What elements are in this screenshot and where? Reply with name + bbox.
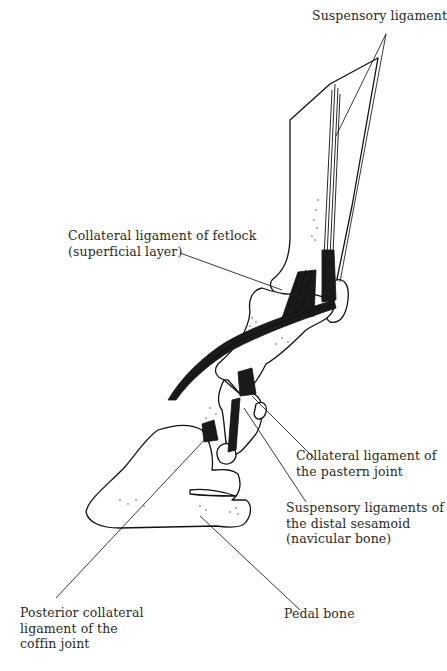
navicular-bone [254,402,266,419]
label-collateral-fetlock: Collateral ligament of fetlock (superfic… [68,228,256,259]
coffin-collateral-fibers [202,420,218,442]
leader-pedal [200,516,300,610]
label-posterior-collateral-coffin: Posterior collateral ligament of the cof… [20,605,144,652]
label-pedal-bone: Pedal bone [284,606,355,622]
label-collateral-pastern: Collateral ligament of the pastern joint [296,448,436,479]
label-suspensory-distal-sesamoid: Suspensory ligaments of the distal sesam… [286,500,444,547]
label-suspensory-ligament: Suspensory ligament [312,8,447,24]
